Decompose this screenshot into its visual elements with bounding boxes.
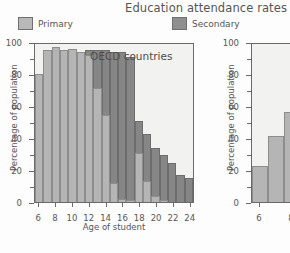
bar-segment-primary bbox=[151, 196, 159, 202]
x-major-tick bbox=[156, 203, 157, 207]
y-major-tick bbox=[246, 139, 251, 140]
x-major-tick bbox=[190, 203, 191, 207]
x-tick-label: 8 bbox=[52, 213, 57, 223]
x-tick-label: 6 bbox=[256, 213, 261, 223]
bar-age-7 bbox=[43, 44, 51, 202]
y-major-tick bbox=[29, 139, 34, 140]
bar-segment-primary bbox=[52, 47, 60, 202]
y-minor-tick bbox=[247, 91, 251, 92]
x-major-tick bbox=[259, 203, 260, 207]
y-tick-label: 0 bbox=[234, 198, 239, 208]
bar-age-13 bbox=[93, 44, 101, 202]
bar-age-8 bbox=[284, 44, 290, 202]
bar-segment-primary bbox=[68, 49, 76, 202]
y-tick-label: 100 bbox=[6, 38, 22, 48]
y-minor-tick bbox=[30, 155, 34, 156]
bar-age-8 bbox=[52, 44, 60, 202]
x-tick-label: 8 bbox=[288, 213, 290, 223]
y-axis-label: Percentage of population bbox=[9, 64, 19, 171]
bar-segment-primary bbox=[85, 55, 93, 202]
y-major-tick bbox=[246, 171, 251, 172]
x-major-tick bbox=[72, 203, 73, 207]
bar-age-9 bbox=[60, 44, 68, 202]
bar-segment-secondary bbox=[118, 52, 126, 199]
x-tick-label: 10 bbox=[66, 213, 77, 223]
bar-age-19 bbox=[143, 44, 151, 202]
bar-segment-primary bbox=[43, 50, 51, 202]
bar-age-24 bbox=[185, 44, 193, 202]
bar-age-7 bbox=[268, 44, 284, 202]
y-major-tick bbox=[246, 203, 251, 204]
bar-age-16 bbox=[118, 44, 126, 202]
x-major-tick bbox=[106, 203, 107, 207]
x-major-tick bbox=[38, 203, 39, 207]
chart-panel-secondary: 02040608010068Percentage of population bbox=[200, 34, 290, 253]
bar-age-18 bbox=[135, 44, 143, 202]
bar-segment-secondary bbox=[168, 163, 176, 203]
x-tick-label: 6 bbox=[35, 213, 40, 223]
bar-age-17 bbox=[126, 44, 134, 202]
y-minor-tick bbox=[30, 59, 34, 60]
bar-segment-primary bbox=[35, 74, 43, 202]
bar-segment-secondary bbox=[110, 52, 118, 183]
y-minor-tick bbox=[30, 187, 34, 188]
chart-panel-oecd: OECD countries 0204060801006810121416182… bbox=[0, 34, 200, 253]
bar-segment-secondary bbox=[126, 57, 134, 201]
y-tick-label: 100 bbox=[223, 38, 239, 48]
y-major-tick bbox=[246, 75, 251, 76]
y-minor-tick bbox=[247, 123, 251, 124]
legend-swatch-icon-primary bbox=[18, 17, 33, 30]
x-major-tick bbox=[55, 203, 56, 207]
bar-segment-primary bbox=[268, 136, 284, 202]
bar-segment-secondary bbox=[176, 175, 184, 202]
bar-age-21 bbox=[160, 44, 168, 202]
bar-segment-primary bbox=[77, 52, 85, 202]
x-major-tick bbox=[173, 203, 174, 207]
x-tick-label: 22 bbox=[168, 213, 179, 223]
x-major-tick bbox=[122, 203, 123, 207]
y-major-tick bbox=[29, 43, 34, 44]
bar-age-14 bbox=[102, 44, 110, 202]
legend-label-secondary: Secondary bbox=[192, 19, 240, 29]
bar-segment-primary bbox=[110, 183, 118, 202]
plot-area-secondary bbox=[251, 43, 290, 203]
bar-age-23 bbox=[176, 44, 184, 202]
legend-label-primary: Primary bbox=[38, 19, 73, 29]
y-minor-tick bbox=[30, 91, 34, 92]
bar-segment-primary bbox=[118, 199, 126, 202]
bar-segment-primary bbox=[126, 200, 134, 202]
y-major-tick bbox=[246, 43, 251, 44]
bar-segment-secondary bbox=[143, 134, 151, 181]
chart-annotation-oecd: OECD countries bbox=[90, 50, 172, 62]
x-tick-label: 24 bbox=[184, 213, 195, 223]
y-major-tick bbox=[29, 171, 34, 172]
bar-series-oecd bbox=[35, 44, 193, 202]
bar-age-20 bbox=[151, 44, 159, 202]
plot-area-oecd: OECD countries bbox=[34, 43, 194, 203]
bar-segment-secondary bbox=[185, 178, 193, 202]
bar-age-12 bbox=[85, 44, 93, 202]
figure-canvas: Education attendance rates Primary Secon… bbox=[0, 0, 290, 253]
bar-series-secondary bbox=[252, 44, 290, 202]
figure-title: Education attendance rates bbox=[125, 1, 287, 15]
y-minor-tick bbox=[247, 187, 251, 188]
bar-segment-primary bbox=[252, 166, 268, 202]
bar-age-6 bbox=[252, 44, 268, 202]
x-major-tick bbox=[89, 203, 90, 207]
bar-age-10 bbox=[68, 44, 76, 202]
bar-segment-secondary bbox=[135, 121, 143, 153]
legend-item-secondary: Secondary bbox=[172, 17, 240, 30]
y-major-tick bbox=[246, 107, 251, 108]
y-major-tick bbox=[29, 107, 34, 108]
y-major-tick bbox=[29, 203, 34, 204]
y-tick-label: 0 bbox=[17, 198, 22, 208]
bar-segment-primary bbox=[143, 181, 151, 202]
y-axis-label: Percentage of population bbox=[226, 64, 236, 171]
x-axis-label: Age of student bbox=[83, 222, 146, 232]
bar-segment-secondary bbox=[151, 148, 159, 195]
y-minor-tick bbox=[247, 59, 251, 60]
bar-segment-primary bbox=[102, 115, 110, 202]
y-major-tick bbox=[29, 75, 34, 76]
bar-segment-primary bbox=[160, 200, 168, 202]
legend-swatch-icon-secondary bbox=[172, 17, 187, 30]
